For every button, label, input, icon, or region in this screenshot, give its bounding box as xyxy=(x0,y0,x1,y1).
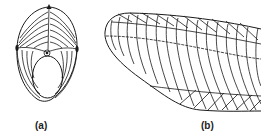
panel-b-drawing xyxy=(105,13,261,111)
panel-b-label: (b) xyxy=(201,120,214,131)
figure-canvas xyxy=(0,0,261,139)
panel-a-label: (a) xyxy=(35,120,47,131)
top-marker-icon xyxy=(47,4,52,9)
right-marker-icon xyxy=(75,46,78,52)
left-marker-icon xyxy=(15,45,18,51)
centre-marker-icon xyxy=(46,52,49,55)
